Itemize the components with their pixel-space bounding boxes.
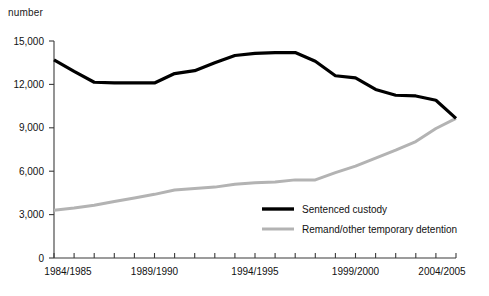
x-axis-tick-label: 1994/1995: [231, 266, 279, 277]
line-chart-plot: 03,0006,0009,00012,00015,000 1984/198519…: [0, 0, 489, 296]
legend-label-1: Remand/other temporary detention: [302, 224, 457, 235]
y-axis-tick-label: 6,000: [19, 166, 44, 177]
x-axis-tick-mark-group: [54, 253, 456, 258]
x-axis-tick-label: 2004/2005: [418, 266, 466, 277]
y-axis-tick-label-group: 03,0006,0009,00012,00015,000: [13, 36, 44, 264]
y-axis-tick-label: 12,000: [13, 79, 44, 90]
y-axis-tick-label: 9,000: [19, 122, 44, 133]
x-axis-tick-label-group: 1984/19851989/19901994/19951999/20002004…: [44, 266, 466, 277]
series-path-group: [54, 53, 456, 211]
chart-legend: Sentenced custodyRemand/other temporary …: [262, 204, 457, 235]
x-axis-tick-label: 1989/1990: [131, 266, 179, 277]
chart-container: number 03,0006,0009,00012,00015,000 1984…: [0, 0, 489, 296]
series-line-sentenced-custody: [54, 53, 456, 119]
x-axis-tick-label: 1999/2000: [332, 266, 380, 277]
series-line-remand-other-temporary-detention: [54, 118, 456, 210]
x-axis-tick-label: 1984/1985: [44, 266, 92, 277]
y-axis-tick-label: 15,000: [13, 36, 44, 47]
y-axis-tick-mark-group: [49, 41, 54, 258]
legend-label-0: Sentenced custody: [302, 204, 387, 215]
y-axis-tick-label: 3,000: [19, 209, 44, 220]
y-axis-tick-label: 0: [38, 253, 44, 264]
